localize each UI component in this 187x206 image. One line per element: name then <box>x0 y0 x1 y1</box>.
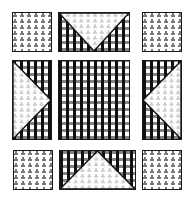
patch-top-left-dotted-square <box>12 12 52 52</box>
patch-bottom-center-flying-geese <box>59 150 136 190</box>
patch-bottom-right-dotted-square <box>142 150 182 190</box>
dotted-triangle-pointing-right <box>13 61 51 139</box>
patch-middle-left-flying-geese <box>12 60 52 140</box>
patch-top-right-dotted-square <box>142 12 182 52</box>
dotted-triangle-pointing-up <box>60 151 135 189</box>
dotted-triangle-pointing-down <box>59 13 129 51</box>
patch-top-center-flying-geese <box>58 12 130 52</box>
patch-middle-right-flying-geese <box>142 60 182 140</box>
patch-bottom-left-dotted-square <box>13 150 53 190</box>
dotted-triangle-pointing-left <box>143 61 181 139</box>
patch-center-gingham-square <box>58 60 130 140</box>
